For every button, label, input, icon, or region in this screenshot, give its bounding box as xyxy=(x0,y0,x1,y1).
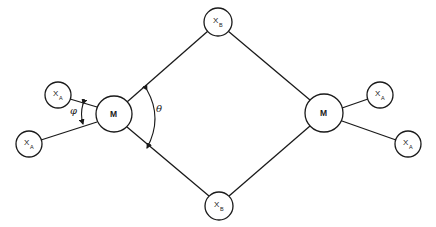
bond-mright-xb-top xyxy=(228,31,310,100)
node-xb-top: X B xyxy=(204,8,232,36)
dimer-structure-diagram: θ φ M M X B X B X A X A X A X A xyxy=(0,0,436,227)
node-subscript: A xyxy=(30,144,34,150)
node-m-right: M xyxy=(305,94,343,132)
theta-angle-arc xyxy=(147,90,155,148)
bond-mright-xb-bottom xyxy=(229,126,310,196)
node-xa-right-lower: X A xyxy=(395,131,421,157)
node-subscript: A xyxy=(59,95,63,101)
bond-mright-xa-lower xyxy=(342,121,396,140)
node-subscript: B xyxy=(220,206,224,212)
bond-mleft-xa-lower xyxy=(41,122,97,140)
node-xa-left-lower: X A xyxy=(16,131,42,157)
bond-mright-xa-upper xyxy=(342,99,368,108)
node-m-left: M xyxy=(96,96,132,132)
phi-label: φ xyxy=(70,105,77,116)
bond-mleft-xb-top xyxy=(127,31,208,102)
node-label: M xyxy=(320,108,327,118)
node-xa-left-upper: X A xyxy=(45,82,71,108)
bond-mleft-xb-bottom xyxy=(127,127,209,196)
node-subscript: A xyxy=(381,95,385,101)
node-xa-right-upper: X A xyxy=(367,82,393,108)
node-xb-bottom: X B xyxy=(205,192,233,220)
theta-label: θ xyxy=(156,103,162,114)
node-subscript: B xyxy=(219,22,223,28)
node-subscript: A xyxy=(409,144,413,150)
node-label: M xyxy=(110,109,117,119)
phi-angle-arc xyxy=(82,104,84,124)
